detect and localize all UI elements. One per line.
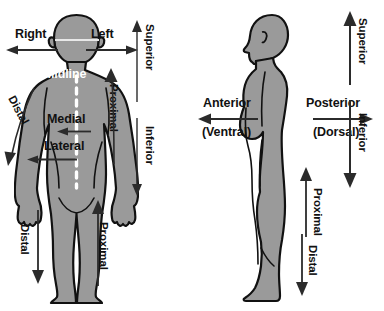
anatomical-directional-terms-diagram: Right Left Midline Medial Lateral Distal (0, 0, 384, 311)
label-superior-anterior: Superior (144, 24, 156, 71)
arrow-down-icon (32, 210, 44, 284)
arrow-down-icon (295, 234, 309, 296)
label-leg-distal: Distal (19, 224, 31, 255)
label-leg-proximal-lateral: Proximal (312, 188, 324, 236)
label-left: Left (91, 28, 114, 41)
arrow-up-icon (100, 68, 120, 166)
arrow-left-icon (198, 113, 258, 125)
label-medial: Medial (47, 113, 85, 126)
lateral-view-panel: Anterior (Ventral) Posterior (Dorsal) Su… (195, 0, 384, 311)
arrow-up-icon (131, 20, 143, 102)
arrow-down-left-icon (4, 86, 36, 168)
label-midline: Midline (44, 68, 86, 81)
arrow-up-icon (343, 11, 357, 85)
label-superior-lateral: Superior (357, 18, 369, 65)
anterior-view-panel: Right Left Midline Medial Lateral Distal (0, 0, 195, 311)
arrow-left-icon (6, 44, 58, 56)
arrow-left-icon (57, 126, 91, 137)
label-ventral: (Ventral) (202, 126, 251, 139)
arrow-up-icon (92, 200, 104, 286)
label-inferior-lateral: Inferior (357, 113, 369, 152)
arrow-down-icon (131, 118, 143, 196)
label-lateral: Lateral (44, 140, 84, 153)
label-right: Right (15, 28, 46, 41)
arrow-up-icon (299, 167, 313, 237)
label-inferior-anterior: Inferior (144, 126, 156, 165)
label-anterior: Anterior (203, 97, 251, 110)
arrow-down-icon (343, 100, 357, 188)
